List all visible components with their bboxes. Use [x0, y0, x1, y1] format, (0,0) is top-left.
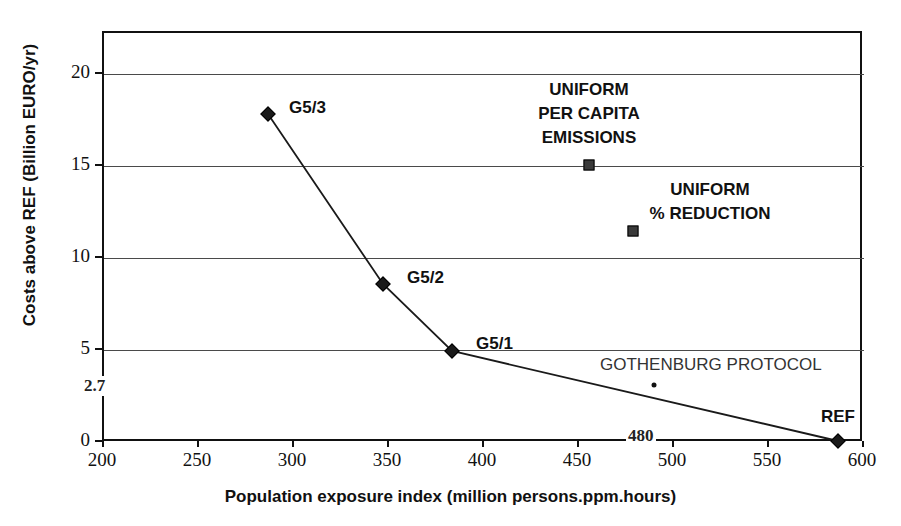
- label-g52: G5/2: [407, 268, 444, 288]
- xtick-mark-200: [102, 441, 104, 447]
- xtick-label-200: 200: [72, 450, 132, 469]
- chart-canvas: 20 15 10 5 0 200 250 300 350 400 450 500…: [0, 0, 901, 526]
- ytick-mark-15: [95, 164, 102, 166]
- ytick-mark-10: [95, 256, 102, 258]
- xtick-mark-450: [577, 441, 579, 447]
- xtick-mark-550: [767, 441, 769, 447]
- xtick-mark-300: [292, 441, 294, 447]
- xtick-label-500: 500: [642, 450, 702, 469]
- ytick-label-15: 15: [40, 154, 90, 173]
- xtick-label-300: 300: [262, 450, 322, 469]
- data-point-uniform-per-capita[interactable]: [584, 160, 595, 171]
- ytick-label-20: 20: [40, 62, 90, 81]
- label-uniform-reduction-1: UNIFORM: [670, 180, 749, 200]
- ytick-mark-5: [95, 348, 102, 350]
- xtick-mark-400: [482, 441, 484, 447]
- xtick-label-350: 350: [357, 450, 417, 469]
- label-uniform-per-capita-1: UNIFORM: [549, 80, 628, 100]
- x-axis-title: Population exposure index (million perso…: [0, 487, 901, 507]
- label-ref: REF: [821, 407, 855, 427]
- ytick-mark-20: [95, 72, 102, 74]
- xtick-mark-350: [387, 441, 389, 447]
- xtick-label-250: 250: [167, 450, 227, 469]
- xtick-label-550: 550: [737, 450, 797, 469]
- xtick-label-600: 600: [832, 450, 892, 469]
- xtick-mark-250: [197, 441, 199, 447]
- ytick-label-0: 0: [40, 430, 90, 449]
- data-point-uniform-reduction[interactable]: [628, 226, 639, 237]
- y-axis-title: Costs above REF (Billion EURO/yr): [20, 0, 40, 380]
- ytick-label-5: 5: [40, 338, 90, 357]
- ytick-mark-0: [95, 440, 102, 442]
- ytick-label-10: 10: [40, 246, 90, 265]
- gridline-15: [104, 166, 864, 167]
- xtick-label-400: 400: [452, 450, 512, 469]
- label-uniform-reduction-2: % REDUCTION: [650, 204, 771, 224]
- xtick-label-450: 450: [547, 450, 607, 469]
- label-g51: G5/1: [476, 334, 513, 354]
- label-uniform-per-capita-2: PER CAPITA: [538, 104, 640, 124]
- gridline-10: [104, 258, 864, 259]
- data-point-gothenburg[interactable]: [652, 383, 657, 388]
- label-gothenburg-protocol: GOTHENBURG PROTOCOL: [600, 355, 822, 375]
- annotation-2-7: 2.7: [82, 376, 107, 396]
- label-uniform-per-capita-3: EMISSIONS: [542, 128, 636, 148]
- xtick-mark-600: [862, 441, 864, 447]
- gridline-20: [104, 74, 864, 75]
- label-g53: G5/3: [289, 98, 326, 118]
- xtick-mark-500: [672, 441, 674, 447]
- plot-area: [102, 31, 862, 441]
- annotation-480: 480: [626, 426, 656, 446]
